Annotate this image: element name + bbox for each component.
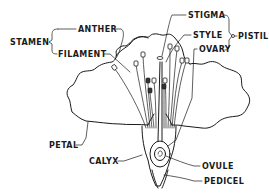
label-calyx: CALYX [89,157,119,166]
label-anther: ANTHER [78,25,117,34]
label-style: STYLE [193,31,223,40]
label-pedicel: PEDICEL [204,177,244,186]
stamens-group [111,44,189,128]
label-ovule: OVULE [202,162,234,171]
flower-diagram: STAMEN ANTHER FILAMENT STIGMA STYLE PIST… [0,0,269,194]
label-ovary: OVARY [199,45,231,54]
ovary-outline [150,141,170,167]
ovule-outline [155,148,166,161]
label-filament: FILAMENT [58,50,107,59]
label-stigma: STIGMA [188,11,225,20]
label-pistil: PISTIL [238,32,269,41]
label-stamen: STAMEN [10,38,49,47]
ovule-inner [158,151,162,156]
right-petal-outline [172,62,250,129]
stigma-shape [157,57,163,60]
label-petal: PETAL [49,141,78,150]
style-line [158,62,162,141]
